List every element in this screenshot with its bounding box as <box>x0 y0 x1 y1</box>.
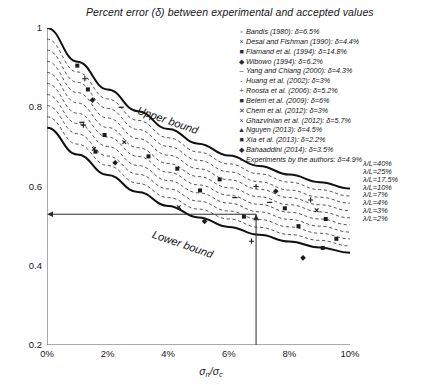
data-point <box>198 188 202 192</box>
legend-marker-icon: ■ <box>237 47 246 57</box>
legend-label: Huang et al. (2002): δ=3% <box>246 76 330 86</box>
legend-marker-icon: ◆ <box>237 57 246 67</box>
data-point <box>283 206 287 210</box>
legend-marker-icon: ▲ <box>237 125 246 135</box>
x-tick-label: 6% <box>209 348 249 359</box>
x-tick-label: 2% <box>88 348 128 359</box>
legend-label: Belem et al. (2009): δ=6% <box>246 96 329 106</box>
y-tick-label: 0.8 <box>12 101 42 112</box>
data-point <box>296 224 300 228</box>
legend-label: Yang and Chiang (2000): δ=4.3% <box>246 66 352 76</box>
legend-marker-icon: + <box>237 86 246 96</box>
legend-label: Desai and Fishman (1990): δ=4.4% <box>246 37 359 47</box>
legend-marker-icon: ◆ <box>237 145 246 155</box>
data-point <box>75 64 79 68</box>
legend-marker-icon: ▪ <box>237 155 246 165</box>
x-axis-tick-labels: 0%2%4%6%8%10% <box>47 348 350 364</box>
data-point <box>147 154 151 158</box>
data-point <box>93 150 97 154</box>
data-point <box>175 167 179 171</box>
legend-marker-icon: ✕ <box>237 106 246 116</box>
legend-label: Bandis (1980): δ=6.5% <box>246 27 319 37</box>
legend-marker-icon: ■ <box>237 135 246 145</box>
x-axis-label-mid: /σ <box>210 365 219 377</box>
x-tick-label: 4% <box>148 348 188 359</box>
y-axis-label: dn/ji <box>0 153 1 170</box>
legend-label: Bahaaddini (2014): δ=3.5% <box>246 145 333 155</box>
legend-marker-icon: × <box>237 116 246 126</box>
data-point <box>300 255 306 261</box>
legend-label: Chem et al. (2012): δ=3% <box>246 106 328 116</box>
legend-label: Wibowo (1994): δ=6.2% <box>246 57 323 67</box>
data-point <box>242 215 246 219</box>
x-axis-label-sub-c: c <box>219 370 223 379</box>
legend-label: Flamand et al. (1994): δ=14.8% <box>246 47 347 57</box>
data-point <box>103 133 107 137</box>
reader-arrow-head-left <box>47 211 53 217</box>
legend-marker-icon: – <box>237 66 246 76</box>
legend-label: Experiments by the authors: δ=4.9% <box>246 155 362 165</box>
data-point <box>218 177 222 181</box>
y-axis-tick-labels: 10.80.60.40.2 <box>8 28 42 345</box>
legend-label: Ghazvinian et al. (2012): δ=5.7% <box>246 116 351 126</box>
data-point <box>86 87 90 91</box>
x-tick-label: 0% <box>27 348 67 359</box>
data-point <box>334 237 338 241</box>
x-tick-label: 8% <box>269 348 309 359</box>
legend-marker-icon: ▫ <box>237 27 246 37</box>
y-axis-label-sub: n <box>0 160 1 164</box>
y-tick-label: 0.6 <box>12 181 42 192</box>
legend-marker-icon: - <box>237 76 246 86</box>
lambda-ratio-label: λ/L=2% <box>363 214 388 223</box>
data-point <box>324 217 328 221</box>
legend-label: Roosta et al. (2006): δ=5.2% <box>246 86 338 96</box>
y-tick-label: 1 <box>12 22 42 33</box>
data-point <box>249 239 254 244</box>
data-point <box>321 246 325 250</box>
legend-marker-icon: ■ <box>237 96 246 106</box>
legend-label: Nguyen (2013): δ=4.5% <box>246 125 322 135</box>
lambda-ratio-labels: λ/L=40%λ/L=25%λ/L=17.5%λ/L=10%λ/L=7%λ/L=… <box>357 0 422 385</box>
legend-label: Xia et al. (2013): δ=2.2% <box>246 135 325 145</box>
y-tick-label: 0.4 <box>12 260 42 271</box>
legend-marker-icon: × <box>237 37 246 47</box>
chart-figure: Percent error (δ) between experimental a… <box>0 0 422 385</box>
